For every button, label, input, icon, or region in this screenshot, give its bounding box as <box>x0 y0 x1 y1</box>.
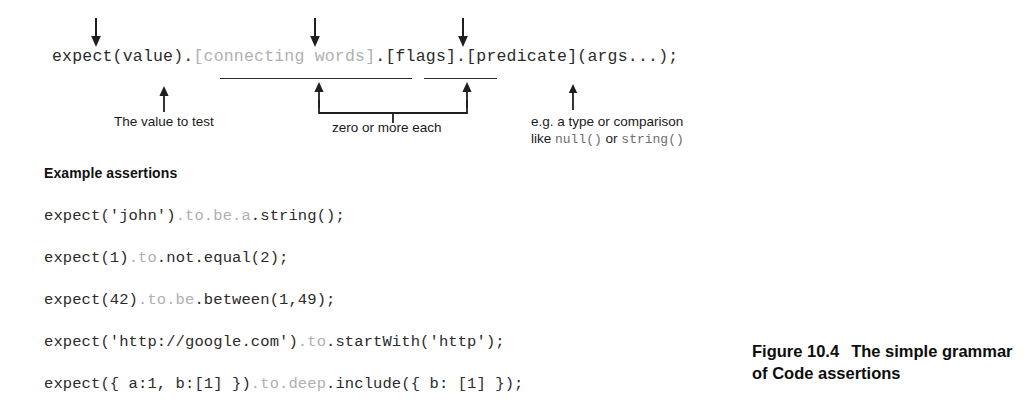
code-part: .startWith('http'); <box>326 333 505 351</box>
code-part: expect(42) <box>44 291 138 309</box>
down-arrow-connecting-words <box>309 18 321 48</box>
grammar-segment-expect: expect(value). <box>52 47 193 66</box>
code-part: expect(1) <box>44 249 129 267</box>
assertion-deep-include: expect({ a:1, b:[1] }).to.deep.include({… <box>44 375 524 393</box>
down-arrow-flags <box>457 18 469 48</box>
code-part: .string(); <box>251 207 345 225</box>
code-part-dim: .to <box>129 249 157 267</box>
assertion-not-equal: expect(1).to.not.equal(2); <box>44 249 288 267</box>
code-part-dim: .to <box>298 333 326 351</box>
underline-flags <box>424 78 497 79</box>
grammar-segment-connecting-words: [connecting words] <box>193 47 375 66</box>
code-part-dim: .to.deep <box>251 375 326 393</box>
assertion-string: expect('john').to.be.a.string(); <box>44 207 345 225</box>
down-arrow-value <box>90 18 102 48</box>
label-predicate-line1: e.g. a type or comparison <box>531 113 684 130</box>
code-part: expect('john') <box>44 207 176 225</box>
label-value-to-test: The value to test <box>114 113 214 130</box>
label-predicate-line2: like null() or string() <box>531 130 684 148</box>
code-part: .include({ b: [1] }); <box>326 375 523 393</box>
label-predicate-or: or <box>602 131 622 146</box>
up-arrow-connecting-words <box>313 82 325 108</box>
assertion-between: expect(42).to.be.between(1,49); <box>44 291 335 309</box>
figure-caption-label: Figure 10.4 <box>752 342 839 360</box>
up-arrow-predicate <box>567 84 579 110</box>
code-part-dim: .to.be.a <box>176 207 251 225</box>
examples-heading: Example assertions <box>44 165 177 181</box>
assertion-start-with: expect('http://google.com').to.startWith… <box>44 333 505 351</box>
code-part: expect({ a:1, b:[1] }) <box>44 375 251 393</box>
label-predicate-string: string() <box>621 132 683 147</box>
up-arrow-value-to-test <box>158 86 170 112</box>
label-predicate: e.g. a type or comparison like null() or… <box>531 113 684 148</box>
label-zero-or-more-each: zero or more each <box>332 119 442 136</box>
code-part-dim: .to.be <box>138 291 194 309</box>
label-predicate-null: null() <box>555 132 602 147</box>
grammar-expression: expect(value).[connecting words].[flags]… <box>52 47 678 66</box>
underline-connecting-words <box>220 78 412 79</box>
up-arrow-flags <box>461 82 473 108</box>
code-part: expect('http://google.com') <box>44 333 298 351</box>
grammar-segment-flags-predicate: .[flags].[predicate](args...); <box>375 47 678 66</box>
label-predicate-like: like <box>531 131 555 146</box>
figure-caption: Figure 10.4The simple grammar of Code as… <box>752 340 1024 384</box>
code-part: .between(1,49); <box>194 291 335 309</box>
code-part: .not.equal(2); <box>157 249 289 267</box>
